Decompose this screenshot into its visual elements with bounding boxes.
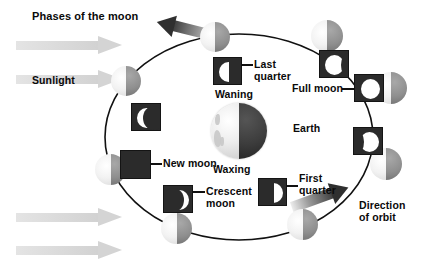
sunlight-arrow-4	[16, 241, 122, 260]
moon-shadow	[163, 188, 184, 212]
arrow-head	[98, 36, 122, 54]
direction-of-orbit-label-line2: of orbit	[359, 211, 396, 223]
first-quarter-label-line2: quarter	[299, 184, 336, 196]
moon-sphere-top-left	[200, 22, 230, 52]
last-quarter-label-line1: Last	[254, 58, 276, 70]
moon-dark-half	[327, 20, 343, 52]
moon-dark-half	[303, 209, 319, 240]
leader-line-first-quarter	[286, 185, 298, 187]
earth-dark-hemisphere	[239, 103, 267, 159]
page-title: Phases of the moon	[32, 10, 138, 22]
earth-landmass	[220, 137, 223, 146]
moon-lit-half	[161, 213, 177, 244]
moon-shadow	[353, 130, 364, 154]
leader-line-full-moon	[342, 88, 355, 90]
inset-waxing-crescent	[163, 185, 193, 213]
arrow-head	[154, 11, 177, 37]
lunar-phases-diagram: Phases of the moon Sunlight Earth Wani	[0, 0, 439, 273]
moon-dark-half	[215, 22, 230, 52]
moon-lit-half	[200, 22, 215, 52]
moon-sphere-top-right	[311, 20, 343, 52]
moon-sphere-left-upper	[111, 66, 141, 96]
moon-shadow	[143, 106, 161, 130]
sunlight-label: Sunlight	[32, 74, 75, 86]
moon-dark-half	[177, 213, 193, 244]
moon-sphere-bottom-right	[287, 209, 318, 240]
inset-first-quarter	[258, 178, 287, 206]
inset-waxing-gibbous	[353, 127, 383, 155]
leader-line-last-quarter	[241, 64, 253, 66]
earth-sphere	[211, 103, 267, 159]
moon-disc	[361, 79, 380, 99]
moon-shadow	[229, 58, 243, 84]
sunlight-arrow-3	[16, 208, 122, 227]
waxing-label: Waxing	[213, 163, 251, 175]
arrow-head	[98, 208, 122, 226]
moon-lit-half	[311, 20, 327, 52]
moon-lit-half	[111, 66, 126, 96]
last-quarter-label-line2: quarter	[254, 70, 291, 82]
arrow-head	[98, 241, 122, 259]
waning-label: Waning	[215, 88, 253, 100]
arrow-shaft	[16, 246, 98, 256]
arrow-shaft	[16, 213, 98, 223]
moon-sphere-bottom-left	[161, 213, 192, 244]
earth-label: Earth	[293, 122, 320, 134]
new-moon-label: New moon	[163, 157, 217, 169]
moon-dark-half	[126, 66, 141, 96]
earth-landmass	[215, 114, 219, 125]
leader-line-crescent	[192, 191, 205, 193]
moon-lit-half	[95, 154, 111, 185]
sunlight-arrow-1	[16, 36, 122, 55]
crescent-moon-label-line1: Crescent	[206, 185, 252, 197]
inset-new-moon	[120, 150, 151, 179]
inset-last-quarter	[213, 57, 242, 85]
inset-full-moon	[354, 74, 384, 102]
moon-lit-half	[287, 209, 303, 240]
inset-waning-crescent	[131, 103, 161, 131]
moon-shadow	[259, 179, 274, 205]
crescent-moon-label-line2: moon	[206, 197, 235, 209]
full-moon-label: Full moon	[292, 82, 343, 94]
moon-dark-half	[391, 72, 407, 104]
arrow-shaft	[16, 41, 98, 51]
moon-shadow	[341, 53, 349, 77]
inset-waning-gibbous	[319, 50, 349, 78]
moon-dark-half	[386, 148, 402, 180]
first-quarter-label-line1: First	[299, 172, 322, 184]
direction-of-orbit-label-line1: Direction	[359, 199, 405, 211]
leader-line-new-moon	[150, 163, 162, 165]
earth-lit-hemisphere	[211, 103, 239, 159]
